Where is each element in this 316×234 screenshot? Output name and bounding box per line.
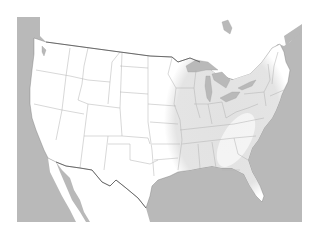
us-map (17, 17, 302, 222)
